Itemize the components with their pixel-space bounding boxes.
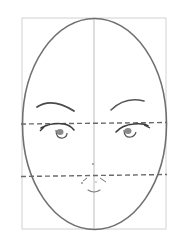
right-eyebrow (111, 100, 144, 110)
nose-line (21, 175, 167, 177)
left-eye (40, 124, 74, 139)
left-eyebrow (37, 103, 74, 111)
right-eye (116, 124, 150, 137)
face-proportion-diagram (0, 0, 191, 245)
